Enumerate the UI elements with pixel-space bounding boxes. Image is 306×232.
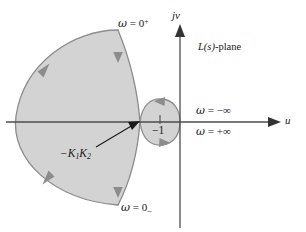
omega-glyph: ω [118,17,127,30]
subscript-minus: − [147,206,152,216]
label-omega-positive-infinity: ω = +∞ [196,126,231,137]
nyquist-plot-figure: ω = 0+ ω = 0− L(s)-plane jv u ω = −∞ ω =… [0,0,306,232]
omega-glyph: ω [196,104,205,117]
shaded-contour-region [15,30,180,205]
jv-axis-arrowhead [175,24,185,37]
minus-K-glyph: −K [60,147,75,159]
paren-s-glyph: (s) [204,41,215,52]
label-jv-axis: jv [172,10,180,21]
positive-infinity-glyph: +∞ [217,125,231,137]
omega-glyph: ω [196,125,205,138]
label-omega-negative-infinity: ω = −∞ [196,105,231,116]
plane-suffix: -plane [215,41,241,52]
superscript-plus: + [144,17,148,26]
subscript-2: 2 [87,152,91,161]
equals-glyph: = [130,17,136,29]
label-ls-plane: L(s)-plane [198,42,241,53]
label-gain-point: −K1K2 [60,148,91,161]
large-lobe-shape [15,30,140,205]
label-critical-point: −1 [152,125,164,137]
nyquist-plot-canvas [0,0,306,232]
minus-one-glyph: −1 [152,124,164,136]
u-axis-arrowhead [268,117,281,127]
label-u-axis: u [285,115,291,126]
omega-glyph: ω [121,201,130,214]
label-omega-zero-minus: ω = 0− [121,202,152,215]
equals-glyph: = [133,201,139,213]
v-glyph: v [175,9,180,21]
label-omega-zero-plus: ω = 0+ [118,18,148,29]
equals-glyph: = [208,125,214,137]
K-glyph: K [79,147,87,159]
equals-glyph: = [208,104,214,116]
negative-infinity-glyph: −∞ [217,104,231,116]
u-glyph: u [285,114,291,126]
